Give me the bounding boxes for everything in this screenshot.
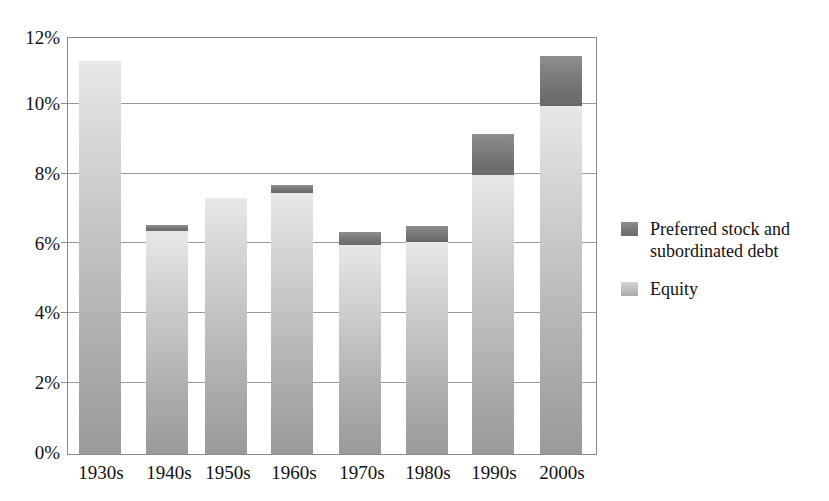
y-axis-tick-label: 0%: [35, 443, 60, 462]
stacked-bar-chart: 12% 10% 8% 6% 4% 2% 0%: [0, 0, 829, 501]
bar-segment-equity: [79, 61, 121, 454]
bar-segment-equity: [146, 231, 188, 454]
bar-segment-equity: [406, 242, 448, 454]
x-axis-tick-label-1990s: 1990s: [456, 462, 532, 484]
bar-segment-preferred: [146, 225, 188, 231]
bar-segment-preferred: [406, 226, 448, 242]
bar-segment-equity: [540, 106, 582, 454]
y-axis: 12% 10% 8% 6% 4% 2% 0%: [0, 0, 60, 501]
bar-segment-equity: [205, 198, 247, 454]
legend-label-preferred-line2: subordinated debt: [650, 241, 778, 261]
legend-label-preferred: Preferred stock andsubordinated debt: [650, 218, 790, 262]
y-axis-tick-label: 2%: [35, 373, 60, 392]
x-axis-tick-label-1970s: 1970s: [324, 462, 400, 484]
y-axis-tick-label: 6%: [35, 234, 60, 253]
legend-label-equity: Equity: [650, 278, 698, 300]
legend-swatch-preferred-icon: [621, 222, 638, 236]
legend-swatch-equity-icon: [621, 282, 638, 296]
gridline-10pct: [68, 103, 596, 104]
legend-label-preferred-line1: Preferred stock and: [650, 219, 790, 239]
x-axis-tick-label-1980s: 1980s: [390, 462, 466, 484]
bar-segment-equity: [472, 175, 514, 454]
plot-area: [67, 37, 597, 455]
chart-legend: Preferred stock andsubordinated debt Equ…: [621, 218, 826, 316]
legend-item-equity: Equity: [621, 278, 826, 300]
y-axis-tick-label: 10%: [25, 94, 60, 113]
gridline-8pct: [68, 173, 596, 174]
bar-segment-equity: [339, 245, 381, 454]
legend-item-preferred: Preferred stock andsubordinated debt: [621, 218, 826, 262]
bar-segment-preferred: [339, 232, 381, 245]
y-axis-tick-label: 8%: [35, 164, 60, 183]
bar-segment-preferred: [540, 56, 582, 106]
x-axis-tick-label-1950s: 1950s: [190, 462, 266, 484]
bar-segment-preferred: [271, 185, 313, 193]
x-axis-tick-label-1960s: 1960s: [256, 462, 332, 484]
bar-segment-preferred: [472, 134, 514, 175]
y-axis-tick-label: 4%: [35, 303, 60, 322]
x-axis-tick-label-1930s: 1930s: [63, 462, 139, 484]
bar-segment-equity: [271, 193, 313, 454]
y-axis-tick-label: 12%: [25, 28, 60, 47]
x-axis-tick-label-2000s: 2000s: [524, 462, 600, 484]
